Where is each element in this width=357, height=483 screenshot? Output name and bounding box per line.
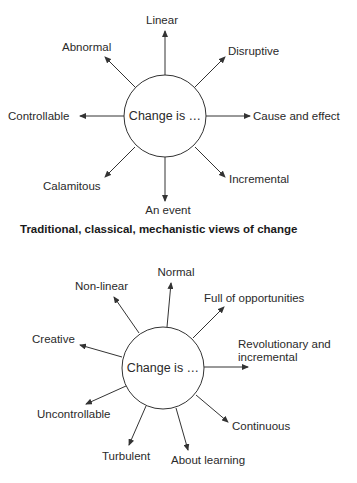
arrow-icon (105, 57, 135, 87)
arrow-icon (129, 406, 146, 445)
spoke-label: Continuous (232, 420, 290, 432)
spoke-creative: Creative (32, 333, 122, 357)
spoke-incremental: Incremental (195, 147, 289, 185)
spoke-label: An event (145, 204, 191, 216)
spoke-uncontrollable: Uncontrollable (37, 386, 126, 420)
spoke-controllable: Controllable (8, 110, 124, 122)
spoke-an-event: An event (145, 157, 191, 216)
spoke-label: Incremental (229, 173, 289, 185)
arrow-icon (114, 297, 139, 333)
spoke-label: Normal (157, 266, 194, 278)
center-label: Change is … (129, 109, 201, 123)
spoke-label: Controllable (8, 110, 69, 122)
spoke-label: Creative (32, 333, 75, 345)
spoke-revolutionary-and-incremental: Revolutionary and incremental (204, 338, 331, 367)
spoke-cause-and-effect: Cause and effect (206, 110, 341, 122)
spoke-disruptive: Disruptive (195, 45, 279, 87)
spoke-label: Linear (146, 14, 178, 26)
arrow-icon (80, 345, 122, 357)
traditional-views-diagram: Change is … Linear Disruptive Cause and … (8, 14, 341, 235)
spoke-label: Disruptive (228, 45, 279, 57)
spoke-label-line2: incremental (238, 351, 297, 363)
arrow-icon (196, 395, 228, 422)
modern-views-diagram: Change is … Normal Full of opportunities… (32, 266, 331, 466)
center-label: Change is … (127, 361, 199, 375)
arrow-icon (193, 307, 224, 338)
spoke-non-linear: Non-linear (75, 280, 139, 333)
spoke-label: Full of opportunities (204, 292, 305, 304)
arrow-icon (195, 57, 225, 87)
change-views-diagram: Change is … Linear Disruptive Cause and … (0, 0, 357, 483)
spoke-label: About learning (171, 454, 245, 466)
spoke-label: Cause and effect (253, 110, 341, 122)
diagram-caption: Traditional, classical, mechanistic view… (20, 223, 297, 235)
spoke-continuous: Continuous (196, 395, 290, 432)
arrow-icon (176, 408, 188, 450)
spoke-label: Uncontrollable (37, 408, 111, 420)
spoke-label: Non-linear (75, 280, 128, 292)
arrow-icon (167, 283, 171, 327)
spoke-full-of-opportunities: Full of opportunities (193, 292, 305, 338)
arrow-icon (86, 386, 126, 404)
spoke-linear: Linear (146, 14, 178, 75)
arrow-icon (105, 147, 135, 177)
spoke-label: Revolutionary and (238, 338, 331, 350)
spoke-abnormal: Abnormal (62, 41, 135, 87)
spoke-label: Turbulent (102, 450, 151, 462)
spoke-calamitous: Calamitous (43, 147, 135, 192)
spoke-label: Abnormal (62, 41, 111, 53)
spoke-about-learning: About learning (171, 408, 245, 466)
arrow-icon (195, 147, 225, 177)
spoke-label: Calamitous (43, 180, 101, 192)
spoke-normal: Normal (157, 266, 194, 327)
